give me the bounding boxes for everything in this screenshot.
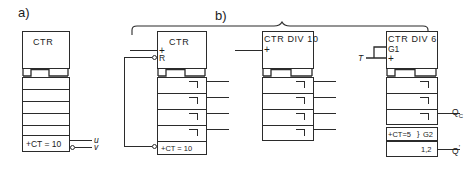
- block-b3-stage-2-output-marker: [420, 113, 429, 120]
- block-a-notch: [23, 68, 69, 77]
- block-b3-notch: [387, 68, 437, 77]
- block-a-stage-4: [22, 125, 70, 135]
- block-b1-stage-0-output-wire: [207, 81, 229, 82]
- block-b1-stage-1-output-wire: [207, 97, 229, 98]
- block-b2-stage-0-output-marker: [296, 81, 305, 88]
- block-b1-stage-3: [157, 125, 207, 141]
- section-label-b: b): [215, 8, 227, 23]
- block-b2-stage-1-output-marker: [296, 97, 305, 104]
- block-b2-stage-2: [262, 109, 314, 125]
- block-b3-stage-0-output-marker: [420, 81, 429, 88]
- block-b2-stage-0: [262, 77, 314, 93]
- section-label-a: a): [18, 5, 30, 20]
- block-b3-stage-2: [386, 109, 438, 125]
- block-b3-input-t-label: T: [358, 54, 363, 63]
- block-b2-stage-3-output-marker: [296, 129, 305, 136]
- block-b2-stage-1-output-wire: [314, 97, 336, 98]
- block-b1-feedback-wire-vertical: [124, 57, 125, 147]
- block-b2-title: CTR DIV 10: [264, 35, 319, 44]
- block-b1-reset-bubble: [152, 55, 157, 60]
- block-b1-count-input-wire: [130, 50, 157, 51]
- block-b2-stage-1: [262, 93, 314, 109]
- block-b1-stage-2: [157, 109, 207, 125]
- block-b2-count-input-wire: [235, 50, 262, 51]
- block-b2-notch: [263, 68, 313, 77]
- block-a-stage-2: [22, 101, 70, 113]
- block-a-title: CTR: [33, 38, 53, 47]
- block-b1-title: CTR: [169, 38, 189, 47]
- block-a-output-v-wire: [75, 147, 92, 148]
- block-b3-content-qualifier: G2: [423, 131, 433, 139]
- block-a-output-v-label: v: [94, 143, 98, 152]
- block-b2-stage-3-output-wire: [314, 129, 336, 130]
- block-b1-stage-1-output-marker: [189, 97, 198, 104]
- block-b3-output-qc-subscript: C: [459, 113, 463, 119]
- block-b1-feedback-wire-bottom: [124, 146, 152, 147]
- block-a-stage-0: [22, 77, 70, 89]
- block-a-content-label: +CT = 10: [26, 140, 61, 149]
- block-b3-input-t-wire: [366, 44, 390, 66]
- block-b2-input-plus-label: +: [264, 45, 270, 55]
- block-b2-stage-2-output-marker: [296, 113, 305, 120]
- block-b2-stage-2-output-wire: [314, 113, 336, 114]
- figure-canvas: a) CTR +CT = 10 u v b) CTR + R: [0, 0, 474, 172]
- block-b1-stage-2-output-marker: [189, 113, 198, 120]
- block-b1-stage-3-output-marker: [189, 129, 198, 136]
- block-b3-title: CTR DIV 6: [388, 35, 437, 44]
- block-b1-content-label: +CT = 10: [161, 145, 192, 153]
- block-a-stage-3: [22, 113, 70, 125]
- block-b1-stage-1: [157, 93, 207, 109]
- block-b2-stage-3: [262, 125, 314, 141]
- block-b2-stage-0-output-wire: [314, 81, 336, 82]
- block-b3-output-qc-main: Q: [452, 107, 459, 117]
- block-b3-content-label: +CT=5: [388, 131, 411, 139]
- block-b3-output-qprime-main: Q: [452, 146, 459, 156]
- block-b3-output-qprime-superscript: ': [459, 144, 460, 151]
- block-b1-notch: [158, 68, 206, 77]
- block-b3-stage-1: [386, 93, 438, 109]
- block-b3-output-qprime-label: Q': [452, 144, 460, 155]
- block-a-stage-1: [22, 89, 70, 101]
- block-b3-stage-0: [386, 77, 438, 93]
- block-b1-stage-0: [157, 77, 207, 93]
- block-b1-stage-2-output-wire: [207, 113, 229, 114]
- block-a-output-u-wire: [70, 140, 92, 141]
- block-b1-feedback-wire-top: [124, 57, 152, 58]
- block-b1-stage-3-output-wire: [207, 129, 229, 130]
- block-b3-content-brace: }: [417, 130, 420, 138]
- block-b3-bottom-label: 1,2: [421, 146, 431, 154]
- block-b3-stage-1-output-marker: [420, 97, 429, 104]
- block-b3-output-qc-label: QC: [452, 108, 463, 119]
- block-b1-stage-0-output-marker: [189, 81, 198, 88]
- block-b1-input-reset-label: R: [159, 54, 165, 63]
